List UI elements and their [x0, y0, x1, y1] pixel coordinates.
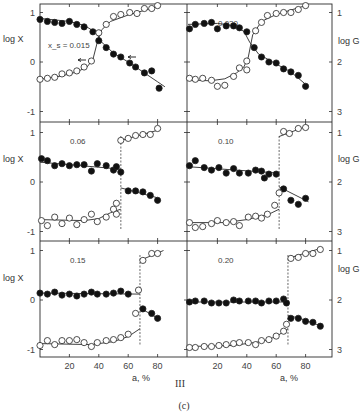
data-point-open	[66, 338, 72, 344]
data-point-filled	[186, 299, 192, 305]
data-point-open	[133, 132, 139, 138]
data-point-filled	[192, 298, 198, 304]
data-point-filled	[288, 197, 294, 203]
data-point-open	[295, 6, 301, 12]
data-point-open	[192, 224, 198, 230]
data-point-open	[245, 340, 251, 346]
data-point-filled	[88, 168, 94, 174]
data-point-open	[94, 219, 100, 225]
data-point-open	[103, 338, 109, 344]
data-point-filled	[236, 25, 242, 31]
right-axis-label-row2: log G	[338, 154, 360, 164]
data-point-filled	[81, 291, 87, 297]
data-point-open	[272, 202, 278, 208]
data-point-open	[52, 214, 58, 220]
data-point-filled	[192, 21, 198, 27]
data-point-open	[81, 217, 87, 223]
right-axis-label-row3: log G	[338, 264, 360, 274]
data-point-open	[140, 131, 146, 137]
figure-canvas: 10-1x_s = 0.0151230.03010-10.061230.1010…	[0, 0, 363, 414]
right-y-tick-label: 2	[337, 295, 342, 305]
data-point-open	[236, 340, 242, 346]
data-point-filled	[103, 45, 109, 51]
data-point-open	[253, 342, 259, 348]
data-point-open	[38, 218, 44, 224]
left-y-tick-label: 1	[30, 128, 35, 138]
data-point-filled	[281, 66, 287, 72]
roman-numeral-label: III	[175, 378, 185, 389]
data-point-open	[186, 220, 192, 226]
panel-label: 0.15	[70, 256, 86, 265]
data-point-open	[44, 223, 50, 229]
data-point-open	[200, 224, 206, 230]
data-point-filled	[125, 188, 131, 194]
data-point-open	[303, 250, 309, 256]
data-point-filled	[66, 163, 72, 169]
data-point-open	[223, 342, 229, 348]
data-point-filled	[103, 291, 109, 297]
panels-group: 10-1x_s = 0.0151230.03010-10.061230.1010…	[27, 3, 342, 372]
data-point-filled	[303, 83, 309, 89]
data-point-filled	[141, 70, 147, 76]
data-point-filled	[140, 189, 146, 195]
panel-middle-left: 10-10.06	[27, 122, 187, 241]
data-point-filled	[155, 197, 161, 203]
data-point-open	[200, 75, 206, 81]
x-axis-label-right: a, %	[280, 373, 298, 383]
data-point-filled	[310, 319, 316, 325]
left-y-tick-label: 0	[30, 57, 35, 67]
data-point-filled	[88, 289, 94, 295]
data-point-open	[52, 74, 58, 80]
data-point-filled	[110, 290, 116, 296]
data-point-open	[74, 68, 80, 74]
data-point-filled	[283, 300, 289, 306]
data-point-open	[118, 11, 124, 17]
data-point-filled	[59, 20, 65, 26]
data-point-open	[317, 246, 323, 252]
data-point-open	[155, 3, 161, 9]
right-y-tick-label: 2	[337, 57, 342, 67]
data-point-filled	[236, 298, 242, 304]
data-point-filled	[231, 23, 237, 29]
right-y-tick-label: 1	[337, 8, 342, 18]
data-point-filled	[127, 60, 133, 66]
data-point-open	[88, 58, 94, 64]
data-point-filled	[44, 291, 50, 297]
figure-caption: (c)	[178, 400, 189, 412]
data-point-open	[208, 343, 214, 349]
data-point-open	[253, 28, 259, 34]
x-tick-label: 40	[94, 361, 104, 371]
data-point-open	[141, 5, 147, 11]
data-point-filled	[201, 20, 207, 26]
data-point-filled	[81, 162, 87, 168]
data-point-filled	[94, 291, 100, 297]
panel-label: 0.20	[218, 256, 234, 265]
data-point-filled	[266, 171, 272, 177]
x-axis-label-left: a, %	[132, 373, 150, 383]
data-point-open	[94, 340, 100, 346]
left-axis-label-row3: log X	[3, 273, 24, 283]
data-point-open	[264, 12, 270, 18]
data-point-filled	[37, 290, 43, 296]
data-point-filled	[52, 163, 58, 169]
left-y-tick-label: 1	[30, 246, 35, 256]
data-point-open	[303, 124, 309, 130]
data-point-open	[303, 3, 309, 9]
data-point-open	[135, 287, 141, 293]
data-point-open	[155, 125, 161, 131]
data-point-filled	[295, 315, 301, 321]
data-point-open	[258, 215, 264, 221]
data-point-filled	[140, 306, 146, 312]
right-y-tick-label: 2	[337, 177, 342, 187]
data-point-open	[59, 338, 65, 344]
data-point-filled	[266, 298, 272, 304]
data-point-open	[37, 342, 43, 348]
data-point-open	[113, 211, 119, 217]
data-point-filled	[125, 291, 131, 297]
data-point-open	[44, 338, 50, 344]
data-point-filled	[303, 318, 309, 324]
data-point-filled	[44, 158, 50, 164]
data-point-filled	[245, 170, 251, 176]
data-point-filled	[133, 188, 139, 194]
data-point-open	[236, 223, 242, 229]
